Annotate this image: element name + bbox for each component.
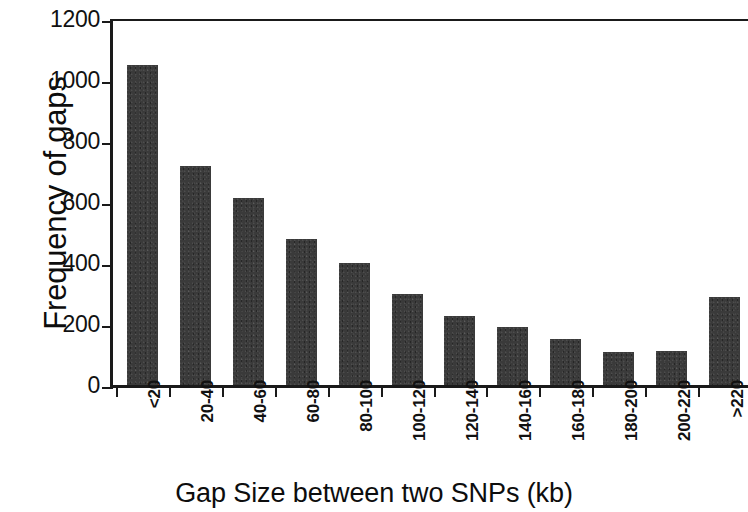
x-axis-tick-label: >220: [729, 380, 746, 470]
y-axis-tick: [102, 265, 113, 267]
x-axis-tick-label: 160-180: [570, 380, 587, 470]
y-axis-tick-label: 1000: [8, 69, 100, 92]
bar: [180, 166, 211, 385]
x-axis-tick-labels: <2020-4040-6060-8080-100100-120120-14014…: [110, 392, 748, 470]
y-axis-tick-label: 0: [8, 374, 100, 397]
y-axis-tick-label: 800: [8, 130, 100, 153]
bar: [127, 65, 158, 385]
x-axis-tick-label: 200-220: [676, 380, 693, 470]
x-axis-tick-label: 100-120: [411, 380, 428, 470]
bar-chart: Frequency of gaps 020040060080010001200 …: [0, 0, 748, 512]
y-axis-tick: [102, 21, 113, 23]
x-axis-tick-label: <20: [146, 380, 163, 470]
y-axis-tick: [102, 82, 113, 84]
x-axis-tick-label: 120-140: [464, 380, 481, 470]
bar: [233, 198, 264, 385]
y-axis-tick-label: 1200: [8, 8, 100, 31]
y-axis-tick-label: 200: [8, 313, 100, 336]
bar: [339, 263, 370, 385]
y-axis-tick-label: 400: [8, 252, 100, 275]
x-axis-tick-label: 60-80: [305, 380, 322, 470]
y-axis-tick: [102, 143, 113, 145]
y-axis-tick-labels: 020040060080010001200: [8, 0, 100, 400]
bar: [286, 239, 317, 385]
x-axis-tick-label: 40-60: [252, 380, 269, 470]
bar: [497, 327, 528, 385]
y-axis-tick: [102, 387, 113, 389]
y-axis-tick-label: 600: [8, 191, 100, 214]
bar: [392, 294, 423, 386]
y-axis-tick: [102, 204, 113, 206]
bar: [550, 339, 581, 385]
x-axis-tick-label: 20-40: [199, 380, 216, 470]
x-axis-tick-label: 80-100: [358, 380, 375, 470]
x-axis-tick-label: 180-200: [623, 380, 640, 470]
bar-series: [113, 21, 748, 385]
y-axis-tick: [102, 326, 113, 328]
x-axis-tick-label: 140-160: [517, 380, 534, 470]
bar: [709, 297, 740, 385]
x-axis-title: Gap Size between two SNPs (kb): [0, 478, 748, 509]
plot-area: [110, 19, 748, 388]
bar: [444, 316, 475, 385]
